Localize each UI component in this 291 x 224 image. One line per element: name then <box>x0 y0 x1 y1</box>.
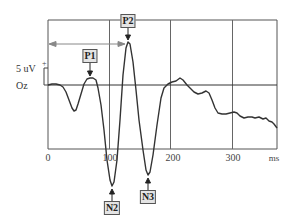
peak-label-n2: N2 <box>104 201 120 215</box>
x-tick-0: 0 <box>46 152 51 163</box>
x-tick-100: 100 <box>103 152 118 163</box>
waveform-line <box>48 42 277 186</box>
x-axis-unit: ms <box>269 153 280 163</box>
peak-label-n3: N3 <box>140 190 156 204</box>
x-tick-200: 200 <box>166 152 181 163</box>
peak-label-p1: P1 <box>82 49 97 63</box>
scale-bar-label: 5 uV <box>16 63 36 74</box>
channel-label: Oz <box>16 80 28 91</box>
scale-plus: + <box>42 59 47 68</box>
scale-bar <box>44 68 48 85</box>
peak-label-p2: P2 <box>120 14 135 28</box>
x-tick-300: 300 <box>226 152 241 163</box>
interval-arrow <box>49 42 125 47</box>
